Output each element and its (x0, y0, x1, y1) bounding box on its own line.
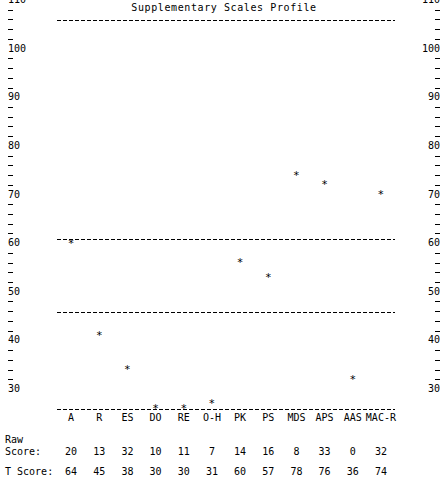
y-axis-left-tick-64 (435, 224, 440, 225)
y-axis-left-tick-56 (435, 263, 440, 264)
y-axis-right-tick-44 (8, 321, 13, 322)
y-axis-right-label-110: 110 (8, 0, 26, 5)
y-axis-right-tick-32 (8, 379, 13, 380)
t-score-MAC-R: 74 (375, 466, 387, 478)
column-header-APS: APS (316, 412, 334, 424)
column-header-DO: DO (150, 412, 162, 424)
t-score-PS: 57 (262, 466, 274, 478)
data-point-ES: * (123, 364, 132, 375)
t-score-A: 64 (65, 466, 77, 478)
y-axis-right-tick-36 (8, 360, 13, 361)
raw-score-AAS: 0 (350, 446, 356, 458)
raw-score-RE: 11 (178, 446, 190, 458)
column-header-MAC-R: MAC-R (366, 412, 396, 424)
y-axis-right-tick-96 (8, 68, 13, 69)
y-axis-left-tick-46 (435, 311, 440, 312)
reference-line-30 (57, 409, 395, 410)
y-axis-left-tick-62 (435, 233, 440, 234)
y-axis-left-tick-72 (435, 185, 440, 186)
y-axis-right-tick-102 (8, 39, 13, 40)
reference-line-65 (57, 239, 395, 240)
y-axis-left-tick-54 (435, 272, 440, 273)
y-axis-left-tick-68 (435, 204, 440, 205)
y-axis-left-tick-76 (435, 165, 440, 166)
y-axis-left-tick-94 (435, 78, 440, 79)
column-header-RE: RE (178, 412, 190, 424)
t-score-RE: 30 (178, 466, 190, 478)
supplementary-scales-profile-chart: Supplementary Scales Profile 11010090807… (0, 0, 448, 489)
raw-score-label-line1: Raw (5, 434, 23, 446)
data-point-A: * (67, 238, 76, 249)
y-axis-left-label-30: 30 (428, 384, 440, 394)
y-axis-left-tick-98 (435, 58, 440, 59)
y-axis-left-tick-84 (435, 126, 440, 127)
y-axis-right-tick-52 (8, 282, 13, 283)
y-axis-right-tick-54 (8, 272, 13, 273)
raw-score-A: 20 (65, 446, 77, 458)
y-axis-left-label-100: 100 (422, 44, 440, 54)
y-axis-left-tick-66 (435, 214, 440, 215)
y-axis-left-tick-58 (435, 253, 440, 254)
y-axis-right-tick-84 (8, 126, 13, 127)
t-score-R: 45 (93, 466, 105, 478)
y-axis-right-label-100: 100 (8, 44, 26, 54)
raw-score-DO: 10 (150, 446, 162, 458)
y-axis-left-tick-106 (435, 19, 440, 20)
plot-area: ************ (57, 20, 395, 409)
y-axis-right-tick-104 (8, 29, 13, 30)
column-header-PS: PS (262, 412, 274, 424)
y-axis-right-tick-46 (8, 311, 13, 312)
data-point-O-H: * (207, 398, 216, 409)
y-axis-left-tick-38 (435, 350, 440, 351)
column-header-O-H: O-H (203, 412, 221, 424)
y-axis-left-tick-102 (435, 39, 440, 40)
y-axis-left-tick-74 (435, 175, 440, 176)
y-axis-right-label-60: 60 (8, 238, 20, 248)
data-point-PK: * (236, 257, 245, 268)
y-axis-left-label-70: 70 (428, 190, 440, 200)
y-axis-right-tick-108 (8, 10, 13, 11)
y-axis-right-label-80: 80 (8, 141, 20, 151)
y-axis-right-tick-48 (8, 301, 13, 302)
y-axis-right-label-70: 70 (8, 190, 20, 200)
y-axis-right-tick-68 (8, 204, 13, 205)
y-axis-left-tick-44 (435, 321, 440, 322)
y-axis-left-tick-88 (435, 107, 440, 108)
column-header-AAS: AAS (344, 412, 362, 424)
y-axis-left-tick-36 (435, 360, 440, 361)
y-axis-right-label-30: 30 (8, 384, 20, 394)
y-axis-right-label-40: 40 (8, 335, 20, 345)
y-axis-right-label-50: 50 (8, 287, 20, 297)
y-axis-left-tick-32 (435, 379, 440, 380)
raw-score-R: 13 (93, 446, 105, 458)
raw-score-label-line2: Score: (5, 446, 41, 458)
t-score-label: T Score: (5, 466, 53, 478)
column-header-PK: PK (234, 412, 246, 424)
y-axis-left-tick-108 (435, 10, 440, 11)
y-axis-right-tick-106 (8, 19, 13, 20)
y-axis-left-tick-92 (435, 88, 440, 89)
data-point-MAC-R: * (376, 189, 385, 200)
y-axis-right-tick-72 (8, 185, 13, 186)
column-header-ES: ES (121, 412, 133, 424)
t-score-O-H: 31 (206, 466, 218, 478)
data-point-R: * (95, 330, 104, 341)
y-axis-right-tick-86 (8, 117, 13, 118)
y-axis-right-tick-78 (8, 156, 13, 157)
raw-score-ES: 32 (121, 446, 133, 458)
y-axis-left-label-40: 40 (428, 335, 440, 345)
y-axis-right-tick-94 (8, 78, 13, 79)
column-header-MDS: MDS (287, 412, 305, 424)
y-axis-left-tick-34 (435, 370, 440, 371)
y-axis-left-tick-48 (435, 301, 440, 302)
raw-score-O-H: 7 (209, 446, 215, 458)
y-axis-right-label-90: 90 (8, 92, 20, 102)
y-axis-right-tick-62 (8, 233, 13, 234)
y-axis-right-tick-76 (8, 165, 13, 166)
y-axis-left-tick-52 (435, 282, 440, 283)
data-point-APS: * (320, 179, 329, 190)
data-point-MDS: * (292, 170, 301, 181)
reference-line-50 (57, 312, 395, 313)
y-axis-right-tick-64 (8, 224, 13, 225)
y-axis-right-tick-34 (8, 370, 13, 371)
